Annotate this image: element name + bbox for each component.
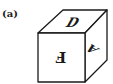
cube-diagram: D F A — [0, 0, 113, 84]
front-face-letter: F — [55, 48, 66, 66]
